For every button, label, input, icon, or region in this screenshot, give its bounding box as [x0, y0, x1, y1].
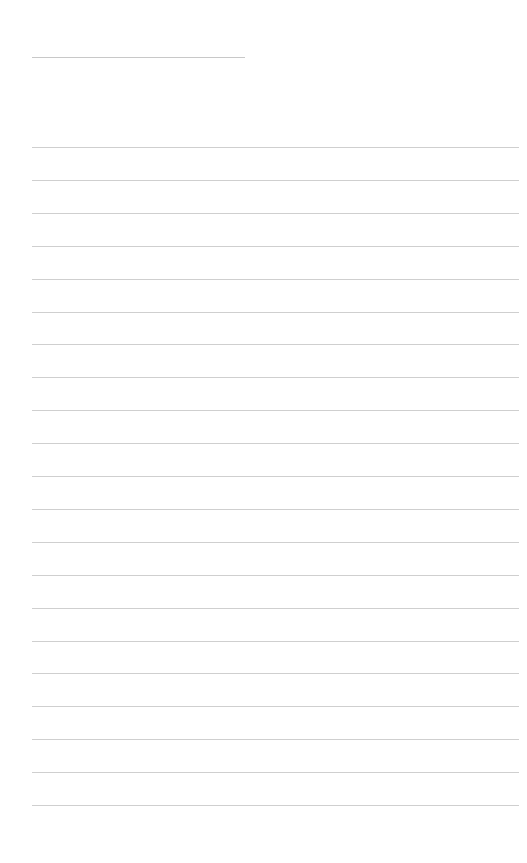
ruled-line: [32, 575, 519, 576]
ruled-line: [32, 641, 519, 642]
ruled-line: [32, 608, 519, 609]
ruled-line: [32, 476, 519, 477]
ruled-line: [32, 706, 519, 707]
ruled-line: [32, 180, 519, 181]
ruled-line: [32, 739, 519, 740]
ruled-line: [32, 312, 519, 313]
ruled-line: [32, 509, 519, 510]
ruled-line: [32, 147, 519, 148]
ruled-line: [32, 805, 519, 806]
title-underline: [32, 57, 245, 58]
ruled-line: [32, 542, 519, 543]
ruled-line: [32, 213, 519, 214]
ruled-line: [32, 410, 519, 411]
ruled-line: [32, 246, 519, 247]
ruled-line: [32, 344, 519, 345]
ruled-line: [32, 772, 519, 773]
ruled-line: [32, 279, 519, 280]
ruled-line: [32, 673, 519, 674]
ruled-line: [32, 443, 519, 444]
ruled-line: [32, 377, 519, 378]
ruled-page: [0, 0, 527, 863]
